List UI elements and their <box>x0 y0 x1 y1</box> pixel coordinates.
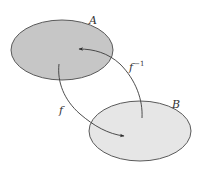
diagram-canvas: A B f f−1 <box>0 0 203 172</box>
function-f-inverse-superscript: −1 <box>134 60 144 68</box>
set-b-label: B <box>171 98 180 111</box>
set-a-label: A <box>88 14 97 27</box>
function-f-label: f <box>58 104 65 117</box>
function-f-inverse-label: f−1 <box>128 60 144 74</box>
mapping-diagram: A B f f−1 <box>0 0 203 172</box>
set-a-ellipse <box>11 20 113 80</box>
